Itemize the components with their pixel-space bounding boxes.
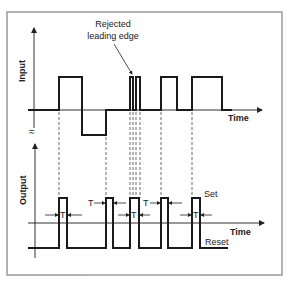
delay-markers: T T T T T: [45, 198, 212, 220]
edge-guide-lines: [59, 112, 192, 198]
output-time-label: Time: [230, 227, 251, 237]
input-axis-label: Input: [17, 60, 27, 82]
delay-label-2: T: [88, 198, 94, 208]
reset-label: Reset: [205, 237, 229, 247]
output-axis-label: Output: [18, 176, 28, 206]
annotation-line2: leading edge: [87, 31, 139, 41]
input-time-label: Time: [228, 113, 249, 123]
axis-break-symbol: ≈: [29, 126, 35, 137]
input-waveform: [28, 77, 232, 135]
delay-label-3: T: [131, 210, 137, 220]
set-label: Set: [204, 189, 218, 199]
annotation-arrow: [114, 44, 132, 74]
timing-diagram: Input Time ≈ Rejected leading edge Outpu…: [0, 0, 290, 289]
input-section: Input Time ≈ Rejected leading edge: [17, 19, 262, 137]
annotation-line1: Rejected: [95, 19, 131, 29]
delay-label-5: T: [193, 210, 199, 220]
delay-label-4: T: [143, 198, 149, 208]
output-section: Output Time Set Reset T T T T T: [18, 144, 264, 258]
delay-label-1: T: [60, 210, 66, 220]
